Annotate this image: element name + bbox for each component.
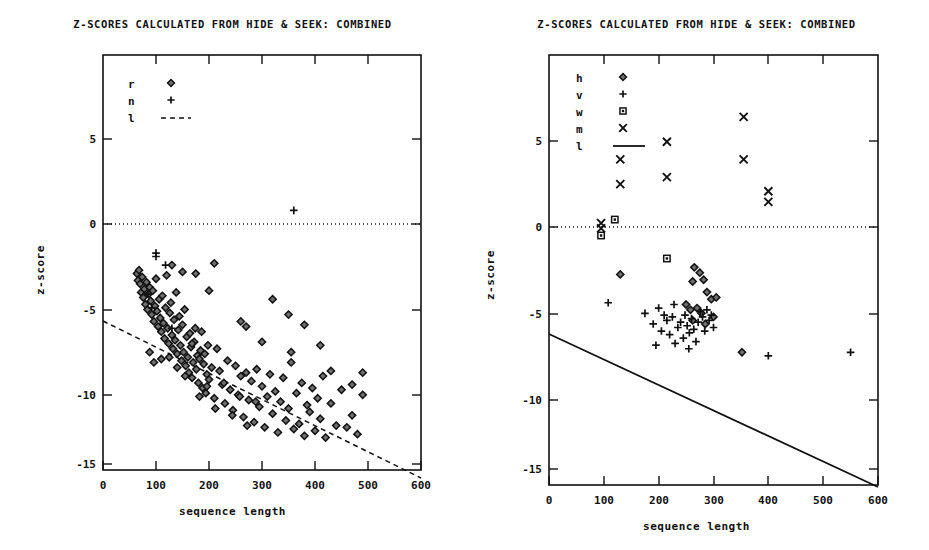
marker-diamond: [216, 367, 223, 374]
marker-diamond: [617, 271, 624, 278]
marker-plus: [670, 301, 678, 309]
marker-diamond: [700, 276, 707, 283]
marker-diamond: [192, 325, 199, 332]
marker-plus: [162, 261, 170, 269]
marker-diamond: [327, 367, 334, 374]
marker-diamond: [298, 379, 305, 386]
marker-ex: [663, 173, 671, 181]
marker-ex: [616, 180, 624, 188]
marker-diamond: [193, 366, 200, 373]
marker-diamond: [253, 366, 260, 373]
marker-plus: [681, 311, 689, 319]
y-axis-ticks-right: [549, 141, 878, 469]
x-tick-label: 200: [199, 479, 219, 492]
marker-plus: [847, 348, 855, 356]
marker-diamond: [221, 400, 228, 407]
marker-diamond: [196, 393, 203, 400]
legend-label-l: l: [576, 140, 583, 153]
plot-frame-right: [549, 55, 878, 485]
x-tick-label: 100: [146, 479, 166, 492]
marker-square: [612, 216, 618, 222]
marker-plus: [683, 322, 691, 330]
chart-panel-right: Z-SCORES CALCULATED FROM HIDE & SEEK: CO…: [464, 0, 929, 550]
marker-diamond: [258, 383, 265, 390]
marker-plus: [680, 334, 688, 342]
marker-diamond: [244, 422, 251, 429]
y-tick-label: 5: [535, 135, 542, 148]
marker-plus: [649, 320, 657, 328]
marker-diamond: [359, 369, 366, 376]
marker-diamond: [285, 405, 292, 412]
marker-plus: [692, 338, 700, 346]
data-points-left: [133, 207, 366, 442]
x-tick-label: 600: [411, 479, 431, 492]
marker-plus: [658, 327, 666, 335]
legend-label-l: l: [128, 112, 135, 125]
marker-diamond: [150, 359, 157, 366]
marker-diamond: [261, 424, 268, 431]
legend-label-n: n: [128, 95, 135, 108]
marker-plus: [666, 331, 674, 339]
marker-diamond: [319, 372, 326, 379]
y-tick-label: -15: [522, 463, 542, 476]
marker-diamond: [181, 306, 188, 313]
legend-swatch-diamond: [168, 80, 175, 87]
marker-ex: [764, 187, 772, 195]
marker-diamond: [168, 261, 175, 268]
x-tick-label: 400: [305, 479, 325, 492]
marker-diamond: [277, 398, 284, 405]
marker-diamond: [198, 328, 205, 335]
marker-diamond: [213, 345, 220, 352]
data-points-right: [597, 113, 854, 360]
marker-diamond: [264, 393, 271, 400]
marker-diamond: [689, 278, 696, 285]
marker-diamond: [293, 390, 300, 397]
marker-diamond: [211, 260, 218, 267]
x-tick-label: 200: [649, 494, 669, 507]
marker-square: [598, 232, 604, 238]
marker-plus: [690, 325, 698, 333]
series-m: [597, 113, 772, 232]
y-tick-label: -5: [83, 304, 96, 317]
marker-diamond: [280, 374, 287, 381]
threshold-line: [549, 334, 878, 487]
marker-diamond: [177, 342, 184, 349]
marker-diamond: [266, 371, 273, 378]
marker-plus: [685, 345, 693, 353]
marker-ex: [740, 155, 748, 163]
x-axis-title-left: sequence length: [0, 505, 465, 518]
marker-diamond: [285, 311, 292, 318]
marker-diamond: [167, 299, 174, 306]
legend-swatch-square: [620, 108, 626, 114]
x-tick-label: 0: [546, 494, 553, 507]
marker-diamond: [317, 342, 324, 349]
marker-ex: [597, 224, 605, 232]
marker-plus: [655, 304, 663, 312]
marker-diamond: [269, 410, 276, 417]
plot-area-left: 5 0 -5 -10 -15 0 100 200 300 400 500 600…: [0, 0, 465, 550]
marker-diamond: [269, 296, 276, 303]
marker-plus: [604, 299, 612, 307]
legend-swatch-diamond: [620, 74, 627, 81]
y-tick-label: 0: [535, 221, 542, 234]
x-tick-label: 500: [358, 479, 378, 492]
marker-diamond: [240, 413, 247, 420]
y-tick-label: 5: [89, 133, 96, 146]
marker-plus: [671, 340, 679, 348]
marker-diamond: [317, 415, 324, 422]
x-tick-label: 600: [868, 494, 888, 507]
legend-label-m: m: [576, 123, 583, 136]
marker-diamond: [288, 359, 295, 366]
series-w: [598, 216, 670, 261]
marker-diamond: [208, 364, 215, 371]
marker-diamond: [738, 349, 745, 356]
marker-plus: [686, 329, 694, 337]
y-tick-label: -15: [76, 458, 96, 471]
marker-diamond: [205, 287, 212, 294]
y-axis-title-left: z-score: [34, 245, 47, 295]
legend-label-v: v: [576, 89, 583, 102]
marker-diamond: [311, 427, 318, 434]
marker-diamond: [158, 355, 165, 362]
legend-left: rnl: [128, 78, 191, 125]
marker-diamond: [702, 320, 709, 327]
